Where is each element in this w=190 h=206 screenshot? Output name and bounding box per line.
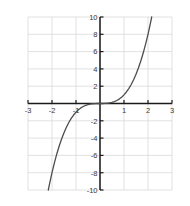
x-tick-label: -3 xyxy=(25,106,32,115)
x-tick-label: -2 xyxy=(49,106,56,115)
x-tick-label: -1 xyxy=(73,106,80,115)
y-tick-label: 10 xyxy=(89,13,97,22)
y-tick-label: 8 xyxy=(93,30,97,39)
y-tick-label: -10 xyxy=(87,186,98,195)
y-tick-label: 2 xyxy=(93,82,97,91)
x-tick-label: 3 xyxy=(170,106,174,115)
x-tick-label: 1 xyxy=(122,106,126,115)
cubic-function-graph: -3-2-1123108642-2-4-6-8-10 xyxy=(0,0,190,206)
y-tick-label: -8 xyxy=(91,169,98,178)
y-tick-label: 4 xyxy=(93,65,97,74)
y-tick-label: -6 xyxy=(91,151,98,160)
y-tick-label: -2 xyxy=(91,117,98,126)
plot-area: -3-2-1123108642-2-4-6-8-10 xyxy=(0,0,190,206)
x-tick-label: 2 xyxy=(146,106,150,115)
y-tick-label: 6 xyxy=(93,47,97,56)
y-tick-label: -4 xyxy=(91,134,98,143)
